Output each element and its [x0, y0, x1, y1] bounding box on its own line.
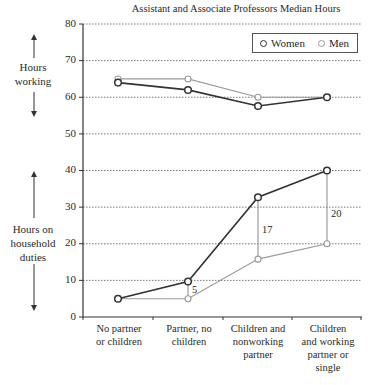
y-tick-10: 10: [56, 273, 76, 285]
data-point-women: [185, 87, 192, 94]
data-point-women: [324, 167, 331, 174]
x-label-line: partner or: [287, 348, 369, 361]
data-point-men: [185, 296, 191, 302]
data-point-women: [255, 103, 262, 110]
side-label-hours-working: Hours working: [0, 60, 66, 88]
axes: [79, 24, 362, 320]
y-tick-80: 80: [56, 17, 76, 29]
data-point-men: [185, 76, 191, 82]
gridlines: [83, 24, 362, 280]
data-point-women: [324, 94, 331, 101]
data-point-men: [255, 256, 261, 262]
y-tick-50: 50: [56, 127, 76, 139]
data-point-women: [185, 278, 192, 285]
data-point-women: [255, 194, 262, 201]
data-point-men: [324, 241, 330, 247]
y-tick-60: 60: [56, 90, 76, 102]
legend-item-women: Women: [260, 37, 305, 49]
y-tick-0: 0: [56, 310, 76, 322]
legend: Women Men: [252, 33, 358, 53]
legend-label-women: Women: [271, 37, 305, 49]
line-women-working: [118, 83, 327, 106]
gap-annotation-20: 20: [331, 207, 347, 220]
x-label-line: and working: [287, 335, 369, 348]
side-label-line: duties: [0, 250, 66, 264]
gap-annotation-17: 17: [262, 223, 278, 236]
data-point-women: [115, 295, 122, 302]
women-marker-icon: [260, 40, 267, 47]
x-label-line: single: [287, 361, 369, 374]
y-tick-30: 30: [56, 200, 76, 212]
side-label-line: Hours on: [0, 222, 66, 236]
data-point-women: [115, 79, 122, 86]
data-point-men: [255, 94, 261, 100]
side-label-line: working: [0, 74, 66, 88]
line-men-working: [118, 79, 327, 97]
side-label-line: Hours: [0, 60, 66, 74]
y-tick-40: 40: [56, 163, 76, 175]
series-lines: [118, 79, 327, 299]
side-label-line: household: [0, 236, 66, 250]
series-markers: [115, 76, 331, 302]
x-category-3: Children and working partner or single: [287, 322, 369, 374]
side-label-household-duties: Hours on household duties: [0, 222, 66, 264]
legend-item-men: Men: [318, 37, 349, 49]
legend-label-men: Men: [329, 37, 349, 49]
x-label-line: Children: [287, 322, 369, 335]
men-marker-icon: [318, 40, 325, 47]
gap-annotation-5: 5: [192, 283, 204, 296]
